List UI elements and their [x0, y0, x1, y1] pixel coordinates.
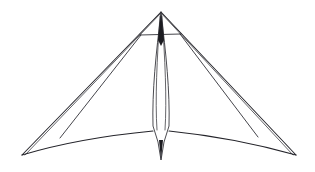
figure-canvas: Delta kite frame line drawing Black-on-w… [0, 0, 315, 172]
kite-line-drawing: Delta kite frame line drawing Black-on-w… [0, 0, 315, 172]
canvas-background [0, 0, 315, 172]
